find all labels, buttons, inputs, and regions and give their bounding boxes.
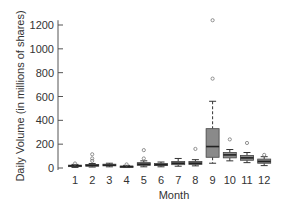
box-month-1 xyxy=(69,162,82,168)
x-tick-label: 7 xyxy=(175,174,181,186)
box-month-9 xyxy=(206,19,219,164)
outlier-point xyxy=(263,153,266,156)
box-month-10 xyxy=(223,138,236,161)
outlier-point xyxy=(245,141,248,144)
box-month-12 xyxy=(258,153,271,165)
x-tick-label: 11 xyxy=(241,174,252,186)
y-tick-label: 0 xyxy=(48,162,54,174)
box-month-8 xyxy=(189,147,202,166)
x-tick-label: 8 xyxy=(192,174,198,186)
box-month-7 xyxy=(172,158,185,166)
box-month-4 xyxy=(120,163,133,168)
box-month-11 xyxy=(241,141,254,162)
x-tick-label: 12 xyxy=(258,174,270,186)
chart-canvas: 020040060080010001200 123456789101112 Da… xyxy=(0,0,305,210)
x-tick-label: 6 xyxy=(158,174,164,186)
box-series xyxy=(69,19,271,168)
outlier-point xyxy=(194,147,197,150)
x-tick-label: 9 xyxy=(210,174,216,186)
x-tick-label: 2 xyxy=(89,174,95,186)
x-tick-label: 10 xyxy=(224,174,236,186)
box-month-6 xyxy=(155,162,168,167)
x-axis: 123456789101112 xyxy=(72,174,270,186)
x-tick-label: 4 xyxy=(124,174,130,186)
y-tick-label: 600 xyxy=(36,91,54,103)
outlier-point xyxy=(228,138,231,141)
y-tick-label: 400 xyxy=(36,114,54,126)
box-month-5 xyxy=(137,149,150,167)
box-iqr xyxy=(206,129,219,158)
x-tick-label: 3 xyxy=(106,174,112,186)
y-axis: 020040060080010001200 xyxy=(30,19,63,174)
outlier-point xyxy=(211,19,214,22)
outlier-point xyxy=(211,77,214,80)
box-month-2 xyxy=(86,153,99,167)
x-tick-label: 1 xyxy=(72,174,78,186)
y-tick-label: 1200 xyxy=(30,19,54,31)
box-month-3 xyxy=(103,163,116,167)
y-tick-label: 800 xyxy=(36,67,54,79)
outlier-point xyxy=(142,149,145,152)
outlier-point xyxy=(91,153,94,156)
outlier-point xyxy=(142,157,145,160)
y-axis-label: Daily Volume (in millions of shares) xyxy=(14,10,26,181)
x-tick-label: 5 xyxy=(141,174,147,186)
y-tick-label: 200 xyxy=(36,138,54,150)
y-tick-label: 1000 xyxy=(30,43,54,55)
x-axis-label: Month xyxy=(159,189,190,201)
box-plot-chart: 020040060080010001200 123456789101112 Da… xyxy=(0,0,305,210)
